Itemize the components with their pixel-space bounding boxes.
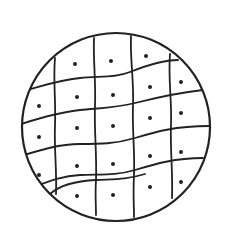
cell-dot: [144, 54, 148, 58]
grid-vertical-line: [94, 38, 96, 215]
cell-dot: [148, 185, 152, 189]
cell-dot: [37, 135, 41, 139]
cell-dot: [37, 104, 41, 108]
cell-dot: [111, 93, 115, 97]
grid-vertical-line: [169, 54, 172, 198]
grid-horizontal-line: [27, 60, 178, 90]
grid-circle-figure: [0, 0, 233, 234]
cell-dot: [179, 180, 183, 184]
grid-vertical-line: [54, 58, 56, 194]
cell-dot: [75, 95, 79, 99]
cell-dot: [148, 85, 152, 89]
cell-dot: [111, 162, 115, 166]
cell-dot: [75, 164, 79, 168]
cell-dot: [179, 80, 183, 84]
grid-vertical-line: [131, 36, 134, 217]
cell-dot: [111, 124, 115, 128]
cell-dot: [37, 173, 41, 177]
cell-dot: [111, 193, 115, 197]
cell-dot: [179, 111, 183, 115]
cell-dot: [179, 150, 183, 154]
cell-dot: [75, 126, 79, 130]
cell-dot: [148, 116, 152, 120]
wavy-grid: [21, 36, 209, 217]
grid-circle-svg: [0, 0, 233, 234]
cell-dot: [148, 154, 152, 158]
cell-dot: [73, 62, 77, 66]
cell-dot: [109, 59, 113, 63]
cell-dot: [75, 194, 79, 198]
